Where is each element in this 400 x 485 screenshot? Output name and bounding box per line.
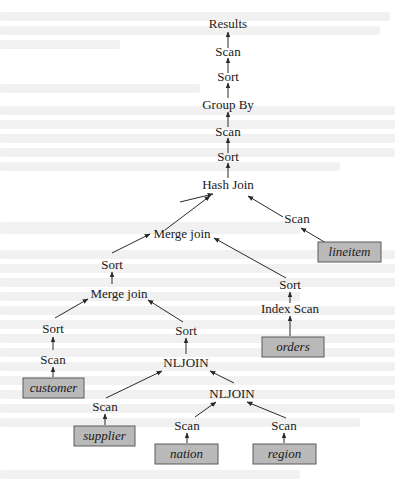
node-sort-nljoin: Sort	[175, 323, 197, 338]
edge-scan-lineitem-to-hashjoin	[248, 196, 283, 217]
node-nljoin-upper: NLJOIN	[163, 355, 209, 370]
edge-sort-to-mergejoin-upper	[112, 234, 150, 253]
edge-nljoin-lower-to-nljoin-upper	[210, 371, 234, 383]
node-sort-left-upper: Sort	[101, 257, 123, 272]
table-region: region	[253, 444, 316, 464]
edge-sort-customer-to-mergejoin-lower	[55, 299, 88, 318]
node-index-scan: Index Scan	[261, 301, 320, 316]
edge-lineitem-to-scan	[301, 228, 326, 243]
node-scan-lineitem: Scan	[284, 211, 310, 226]
node-scan-supplier: Scan	[92, 399, 118, 414]
node-sort-customer: Sort	[42, 321, 64, 336]
table-lineitem-label: lineitem	[329, 244, 371, 259]
node-group-by: Group By	[202, 97, 254, 112]
node-results: Results	[209, 16, 247, 31]
table-nation-label: nation	[170, 446, 203, 461]
table-supplier-label: supplier	[83, 428, 127, 443]
node-sort-top: Sort	[217, 69, 239, 84]
edge-sort-nljoin-to-mergejoin-lower	[148, 300, 183, 322]
node-scan-2: Scan	[215, 124, 241, 139]
node-scan-region: Scan	[271, 418, 297, 433]
node-sort-orders: Sort	[279, 277, 301, 292]
node-merge-join-upper: Merge join	[153, 226, 211, 241]
node-scan-top: Scan	[215, 44, 241, 59]
node-scan-nation: Scan	[174, 418, 200, 433]
edge-scan-nation-to-nljoin	[195, 402, 216, 417]
node-nljoin-lower: NLJOIN	[209, 386, 255, 401]
node-hash-join: Hash Join	[202, 177, 254, 192]
table-supplier: supplier	[74, 426, 135, 446]
edge-scan-supplier-to-nljoin	[106, 371, 162, 398]
table-nation: nation	[155, 444, 218, 464]
table-orders: orders	[262, 337, 324, 357]
edge-scan-region-to-nljoin	[247, 402, 286, 418]
edge-sort-orders-to-mergejoin-upper	[214, 238, 286, 278]
table-customer-label: customer	[30, 380, 79, 395]
tables: lineitem orders customer supplier nation…	[23, 242, 381, 464]
table-orders-label: orders	[276, 339, 309, 354]
table-customer: customer	[23, 378, 84, 398]
table-region-label: region	[268, 446, 301, 461]
table-lineitem: lineitem	[318, 242, 381, 262]
node-scan-customer: Scan	[40, 352, 66, 367]
query-plan-diagram: Results Scan Sort Group By Scan Sort Has…	[0, 0, 400, 485]
node-sort-2: Sort	[217, 149, 239, 164]
edge-mergejoin-to-hashjoin-diag	[165, 196, 210, 230]
node-merge-join-lower: Merge join	[90, 286, 148, 301]
operators: Results Scan Sort Group By Scan Sort Has…	[40, 16, 319, 433]
